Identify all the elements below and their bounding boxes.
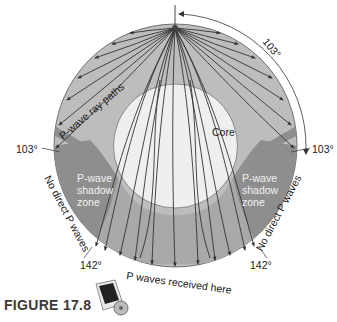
received-label: P waves received here: [126, 269, 233, 296]
angle-right-label: 103°: [312, 143, 334, 155]
p-wave-shadow-zone-diagram: Core P-wave ray paths P-wave shadow zone…: [0, 0, 337, 322]
shadow-zone-right-line2: shadow: [242, 184, 279, 196]
shadow-zone-left-line2: shadow: [77, 184, 114, 196]
shadow-zone-left-line3: zone: [77, 196, 100, 208]
cd-rom-media-icon: [93, 278, 133, 318]
core-label: Core: [212, 126, 235, 138]
angle-bottom-right-label: 142°: [250, 259, 272, 271]
figure-caption: FIGURE 17.8: [4, 297, 91, 313]
core: [114, 84, 238, 208]
epicenter-icon: [172, 25, 178, 31]
shadow-zone-right-line3: zone: [242, 196, 265, 208]
shadow-zone-right-line1: P-wave: [242, 172, 277, 184]
shadow-zone-left-line1: P-wave: [77, 172, 112, 184]
angle-left-label: 103°: [16, 143, 38, 155]
angle-top-arc-label: 103°: [260, 36, 283, 60]
angle-bottom-left-label: 142°: [80, 259, 102, 271]
